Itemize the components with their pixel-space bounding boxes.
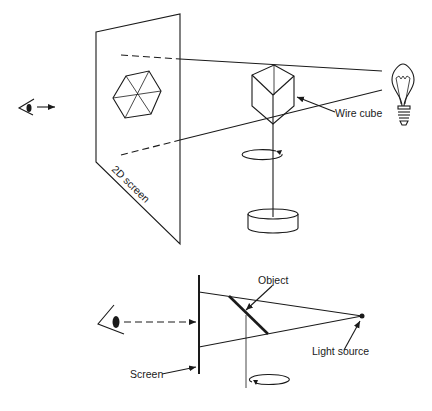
eye-icon: [98, 305, 124, 334]
2d-screen: [96, 14, 180, 244]
top-diagram: 2D screen Wire cube: [19, 14, 414, 244]
rotation-arrow: [249, 375, 289, 385]
wire-cube: [252, 65, 294, 124]
screen-label: Screen: [130, 368, 163, 380]
cube-label: Wire cube: [335, 107, 382, 119]
hexagon-projection: [113, 71, 161, 118]
light-source-label: Light source: [312, 345, 369, 357]
screen-label: 2D screen: [110, 163, 153, 205]
object-label: Object: [258, 274, 288, 286]
light-bulb: [392, 64, 414, 125]
light-source: [360, 314, 365, 319]
bottom-diagram: Object Light source Screen: [98, 274, 369, 388]
rotation-arrow: [242, 150, 282, 160]
eye-icon: [19, 99, 34, 115]
